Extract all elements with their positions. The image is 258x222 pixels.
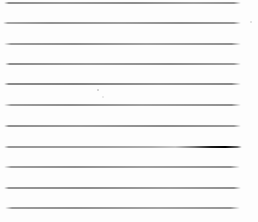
scan-speck	[102, 96, 104, 98]
ruled-line	[4, 83, 241, 85]
ruled-line	[4, 146, 242, 148]
ruled-line	[5, 63, 241, 65]
ruled-lines	[0, 0, 258, 222]
ruled-line	[4, 43, 241, 45]
ruled-line	[4, 166, 240, 168]
lined-paper-page	[0, 0, 258, 222]
ruled-line	[4, 125, 241, 127]
ruled-line	[4, 104, 241, 106]
scan-speck	[250, 21, 252, 23]
ruled-line	[3, 22, 241, 24]
ruled-line	[5, 207, 240, 209]
scan-speck	[97, 89, 99, 91]
ruled-line	[4, 187, 241, 189]
ruled-line	[4, 2, 241, 4]
